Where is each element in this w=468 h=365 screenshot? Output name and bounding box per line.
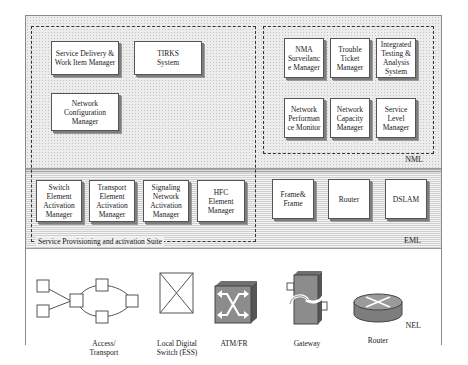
router-icon [352,292,404,324]
switch-element-activation-manager-box: Switch Element Activation Manager [36,180,82,222]
suite-label: Service Provisioning and activation Suit… [36,237,164,246]
service-delivery-manager-box: Service Delivery & Work Item Manager [51,41,119,75]
dslam-box: DSLAM [385,179,427,219]
router-em-box: Router [328,179,370,219]
nel-layer-label: NEL [405,321,421,330]
gateway-icon [284,270,330,326]
local-digital-switch-label: Local Digital Switch (ESS) [145,339,209,357]
trouble-ticket-manager-box: Trouble Ticket Manager [330,38,370,78]
ring-topology-icon [34,276,154,326]
router-device-label: Router [356,336,400,345]
network-configuration-manager-box: Network Configuration Manager [51,93,119,131]
integrated-testing-system-box: Integrated Testing & Analysis System [376,38,416,78]
gateway-label: Gateway [284,339,330,348]
atm-switch-icon [213,280,259,324]
architecture-diagram: NML EML NEL Service Provisioning and act… [25,15,442,345]
frame-and-frame-box: Frame& Frame [272,179,314,219]
network-capacity-manager-box: Network Capacity Manager [330,98,370,138]
access-transport-label: Access/ Transport [74,339,134,357]
tirks-system-box: TIRKS System [134,41,202,75]
crossed-box-icon [159,272,195,316]
atm-fr-label: ATM/FR [211,339,257,348]
nml-layer-label: NML [405,155,423,164]
hfc-element-manager-box: HFC Element Manager [197,180,245,222]
nma-surveillance-manager-box: NMA Surveilanc e Manager [284,38,324,78]
signaling-network-activation-manager-box: Signaling Network Activation Manager [143,180,189,222]
network-performance-monitor-box: Network Performan ce Monitor [284,98,324,138]
transport-element-activation-manager-box: Transport Element Activation Manager [89,180,135,222]
service-level-manager-box: Service Level Manager [376,98,416,138]
eml-layer-label: EML [404,236,421,245]
